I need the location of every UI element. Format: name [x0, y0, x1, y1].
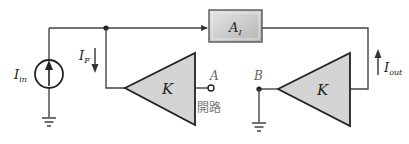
feedback-amplifier-right [278, 53, 350, 126]
wire-feedback-left [106, 28, 125, 88]
left-gain-label: K [161, 80, 174, 98]
feedback-current-arrow-icon [92, 48, 99, 73]
output-current-label: Iout [383, 60, 403, 77]
current-source [35, 28, 63, 117]
feedback-current-label: IF [78, 48, 90, 65]
ground-icon [252, 123, 266, 131]
node-b-label: B [253, 69, 263, 83]
feedback-amplifier-left [125, 53, 195, 125]
right-gain-label: K [316, 81, 329, 99]
input-current-label: Iin [13, 67, 27, 84]
circuit-diagram: IF Iin K A 開路 AI Iout K B [0, 0, 409, 144]
node-a-label: A [209, 69, 219, 83]
ground-icon [42, 118, 56, 126]
output-current-arrow-icon [375, 49, 382, 75]
node-a-terminal [208, 85, 214, 91]
open-circuit-label: 開路 [197, 100, 221, 115]
